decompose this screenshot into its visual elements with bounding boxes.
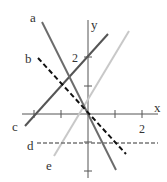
- label-d: d: [27, 138, 34, 153]
- label-b: b: [25, 51, 32, 66]
- y-tick-label-2: 2: [72, 51, 78, 65]
- line-c: [25, 34, 108, 126]
- label-c: c: [12, 119, 18, 134]
- line-b: [38, 58, 126, 154]
- x-axis-label: x: [154, 100, 161, 115]
- y-axis-label: y: [91, 17, 98, 32]
- label-a: a: [30, 10, 36, 25]
- line-diagram: a b c d e x y 2 2: [0, 0, 167, 182]
- line-e: [54, 31, 129, 156]
- x-tick-label-2: 2: [139, 122, 145, 136]
- label-e: e: [46, 158, 52, 173]
